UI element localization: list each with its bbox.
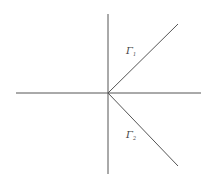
label-gamma-1: Γ1 bbox=[125, 45, 136, 57]
ray-gamma-2 bbox=[108, 93, 178, 166]
contour-diagram: Γ1 Γ2 bbox=[0, 0, 211, 185]
label-gamma-2: Γ2 bbox=[125, 129, 136, 141]
ray-gamma-1 bbox=[108, 24, 178, 93]
